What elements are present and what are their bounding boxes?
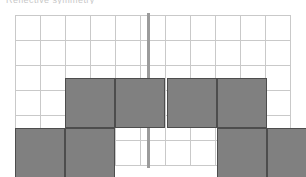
left-cell-bottom-left xyxy=(15,128,65,177)
grid-line-horizontal xyxy=(15,65,291,66)
figure-caption: Reflective symmetry xyxy=(6,0,126,4)
right-cell-top-left xyxy=(167,78,217,128)
left-cell-bottom-right xyxy=(65,128,115,177)
right-cell-top-right xyxy=(217,78,267,128)
grid-line-horizontal xyxy=(15,40,291,41)
grid-line-horizontal xyxy=(15,15,291,16)
left-cell-top-right xyxy=(115,78,165,128)
symmetry-figure: Reflective symmetry xyxy=(0,0,306,177)
left-cell-top-left xyxy=(65,78,115,128)
right-cell-bottom-right xyxy=(267,128,306,177)
right-cell-bottom-left xyxy=(217,128,267,177)
